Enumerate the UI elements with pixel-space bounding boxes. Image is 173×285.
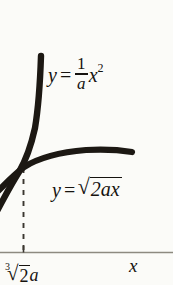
x-axis-label: x <box>129 256 137 275</box>
sqrt-label-lhs: y <box>52 180 61 200</box>
x-axis-tick-label-cbrt: 3 √ 2 a <box>3 256 39 285</box>
cube-root-radicand: 2 <box>19 265 30 285</box>
cube-root-expression: 3 √ 2 a <box>3 263 39 285</box>
curve-label-sqrt: y = √ 2ax <box>52 178 122 201</box>
radicand: 2ax <box>90 177 122 200</box>
parabola-label-variable: x <box>89 65 98 85</box>
parabola-label-lhs: y <box>48 65 57 85</box>
cube-root-trailing-factor: a <box>30 266 39 284</box>
parabola-label-equals: = <box>60 65 71 85</box>
fraction-denominator: a <box>75 75 88 93</box>
math-figure: y = 1 a x 2 y = √ 2ax 3 √ 2 a x <box>0 0 173 285</box>
fraction-one-over-a: 1 a <box>75 55 88 93</box>
radical-sign-icon: √ <box>78 177 90 200</box>
parabola-label-exponent: 2 <box>98 62 104 74</box>
sqrt-label-equals: = <box>64 180 75 200</box>
fraction-numerator: 1 <box>75 55 88 73</box>
plot-canvas <box>0 0 173 285</box>
cube-root-index: 3 <box>5 262 10 272</box>
square-root-expression: √ 2ax <box>78 177 122 200</box>
curve-label-parabola: y = 1 a x 2 <box>48 56 104 94</box>
curve-parabola <box>0 56 41 211</box>
